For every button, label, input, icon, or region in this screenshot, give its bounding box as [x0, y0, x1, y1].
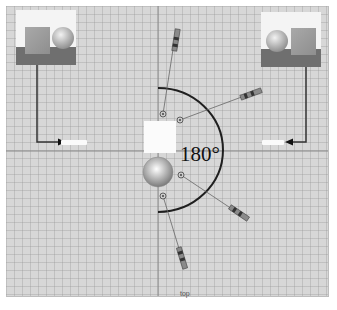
cube-icon: [291, 28, 316, 55]
center-sphere[interactable]: [143, 157, 173, 187]
pivot-icon[interactable]: [178, 172, 184, 178]
right-arrow-icon: [285, 139, 293, 146]
screwdriver-handle-icon[interactable]: [172, 29, 180, 52]
angle-label: 180°: [180, 142, 220, 167]
view-name-label: top: [180, 290, 190, 297]
pivot-icon[interactable]: [160, 193, 166, 199]
sphere-icon: [266, 30, 288, 52]
thumbnail-left[interactable]: [16, 10, 76, 65]
screwdriver-handle-icon[interactable]: [228, 205, 249, 221]
pivot-icon[interactable]: [177, 117, 183, 123]
sphere-icon: [52, 27, 74, 49]
screwdriver-handle-icon[interactable]: [240, 88, 262, 100]
screwdriver-handle-icon[interactable]: [176, 247, 187, 270]
right-connector: [293, 64, 306, 142]
center-cube[interactable]: [144, 121, 176, 153]
left-connector: [37, 64, 58, 142]
left-axis-tag: [61, 140, 87, 145]
right-axis-tag: [262, 140, 284, 145]
pivot-icon[interactable]: [160, 111, 166, 117]
cube-icon: [25, 27, 50, 54]
thumbnail-right[interactable]: [261, 12, 321, 67]
